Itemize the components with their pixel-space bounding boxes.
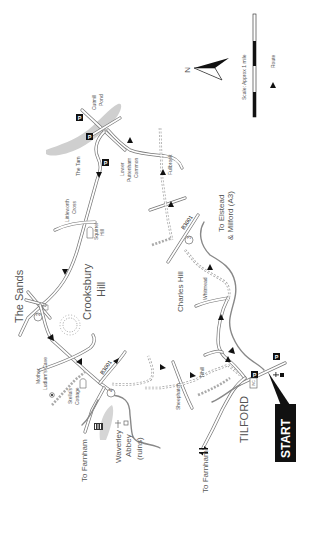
label-tilhill: Tilhill — [199, 367, 205, 378]
label-sheephatch: Sheephatch — [175, 383, 181, 410]
cave-icon — [50, 393, 55, 398]
waypoint-2: 3 — [185, 236, 193, 244]
label-lower-puttenham-1: Lower — [119, 162, 125, 176]
parking-marker-1: P — [76, 114, 83, 121]
route-legend-label: Route — [270, 54, 276, 68]
route-legend-arrow-icon — [270, 82, 276, 88]
parking-marker-2: P — [86, 133, 93, 140]
label-crooksbury-1: Crooksbury — [81, 263, 93, 320]
svg-text:P: P — [104, 160, 108, 166]
parking-marker-4: P — [251, 371, 258, 378]
north-arrow-icon — [194, 58, 229, 80]
waverley-church-icon — [115, 420, 128, 428]
tilford-church-icon — [273, 372, 284, 377]
label-the-sands: The Sands — [13, 269, 25, 323]
label-littleworth-1: Littleworth — [64, 199, 70, 222]
label-to-elstead-1: To Elstead — [217, 195, 226, 232]
parking-marker-3: P — [102, 159, 109, 166]
waverley-lake — [100, 405, 114, 440]
label-lower-puttenham-3: Common — [133, 157, 139, 178]
wc-icon: WC — [250, 378, 257, 388]
label-to-elstead-2: & Milford (A3) — [226, 191, 235, 240]
parking-marker-5: P — [273, 353, 280, 360]
stellas-cottage-icon — [80, 379, 86, 388]
label-mother-ludlam-2: Ludlam's Cave — [42, 357, 48, 390]
svg-text:2: 2 — [35, 313, 41, 316]
label-crooksbury-2: Hill — [95, 282, 107, 297]
label-to-farnham-rail: To Farnham — [201, 450, 210, 493]
svg-text:P: P — [253, 372, 257, 378]
walk-map: N Scale: Approx 1 mile Route Cutmill Pon… — [0, 0, 309, 559]
label-waverley-2: Abbey — [124, 434, 133, 457]
svg-text:P: P — [275, 354, 279, 360]
label-whitmead: Whitmead — [202, 277, 208, 300]
label-to-farnham-road: To Farnham — [80, 439, 89, 482]
label-waverley-3: (ruins) — [135, 437, 144, 460]
label-stellas-1: Stella's — [67, 388, 73, 404]
scale-bar — [253, 14, 256, 117]
svg-text:3: 3 — [186, 236, 192, 239]
svg-text:WC: WC — [252, 380, 256, 386]
svg-text:P: P — [78, 115, 82, 121]
scale-label: Scale: Approx 1 mile — [241, 54, 247, 100]
label-fullbrook: Fullbrook — [167, 154, 173, 175]
label-stellas-2: Cottage — [74, 387, 80, 405]
label-the-tarn: The Tarn — [75, 156, 81, 176]
label-mother-ludlam-1: Mother — [35, 368, 41, 384]
waypoint-3: 2 — [34, 313, 42, 321]
start-label: START — [279, 418, 293, 458]
label-squirrel-2: Hill — [99, 229, 105, 236]
waverley-abbey-ruin-icon — [94, 423, 103, 430]
cutmill-pond-label-2: Pond — [98, 94, 104, 106]
north-label: N — [183, 67, 192, 73]
label-littleworth-2: Cross — [71, 200, 77, 214]
label-charles-hill: Charles Hill — [176, 271, 185, 312]
label-waverley-1: Waverley — [114, 430, 123, 463]
cutmill-pond-label-1: Cutmill — [91, 95, 97, 110]
label-lower-puttenham-2: Puttenham — [126, 158, 132, 182]
waypoint-4: 4 — [107, 389, 115, 397]
svg-text:4: 4 — [108, 389, 114, 392]
svg-text:P: P — [88, 134, 92, 140]
label-tilford: TILFORD — [238, 396, 250, 443]
crooksbury-hill-icon — [60, 315, 80, 335]
